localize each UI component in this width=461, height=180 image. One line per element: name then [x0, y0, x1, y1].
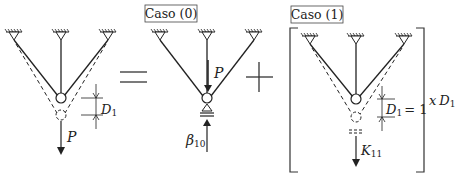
- reaction-label: β10: [185, 132, 206, 149]
- arrow-head-icon: [57, 147, 65, 155]
- right-bracket: [416, 28, 424, 172]
- equals-operator: [120, 72, 147, 82]
- pin-support-icon: [5, 29, 22, 40]
- load-label: P: [213, 65, 224, 81]
- bar-left: [14, 40, 58, 96]
- node-joint: [56, 93, 66, 103]
- multiplier-label: xD1: [429, 93, 456, 109]
- panel-case-0: Caso (0) P β10: [145, 5, 262, 152]
- node-joint: [202, 93, 212, 103]
- restraint-icon: [202, 104, 212, 111]
- pin-support-icon: [301, 33, 318, 44]
- pin-support-icon: [347, 33, 364, 44]
- deformed-bar-right: [65, 44, 106, 113]
- displaced-node: [56, 110, 66, 120]
- bar-right: [64, 40, 108, 96]
- plus-operator: [246, 62, 273, 92]
- case-0-title: Caso (0): [145, 6, 198, 21]
- pin-support-icon: [99, 29, 116, 40]
- displacement-label: D1: [100, 102, 117, 118]
- deformed-bar-left: [16, 44, 57, 113]
- arrow-head-icon: [203, 119, 211, 126]
- arrow-head-icon: [204, 85, 212, 92]
- load-label: P: [66, 129, 77, 145]
- displaced-node: [351, 112, 361, 122]
- arrow-head-icon: [352, 159, 360, 167]
- pin-support-icon: [151, 29, 168, 40]
- stiffness-label: K11: [360, 143, 382, 159]
- panel-case-1: Caso (1) K11 D1= 1 xD1: [290, 6, 456, 172]
- deformed-bar-left: [312, 48, 352, 114]
- pin-support-icon: [395, 33, 412, 44]
- bar-left: [310, 44, 353, 97]
- panel-original: P D1: [5, 29, 117, 155]
- node-joint: [351, 94, 361, 104]
- unit-displacement-label: D1= 1: [385, 102, 427, 118]
- bar-right: [359, 44, 404, 97]
- bar-left: [160, 40, 203, 96]
- case-1-title: Caso (1): [291, 7, 344, 22]
- pin-support-icon: [52, 29, 69, 40]
- superposition-diagram: P D1 Caso (0) P β10: [0, 0, 461, 180]
- pin-support-icon: [198, 29, 215, 40]
- pin-support-icon: [245, 29, 262, 40]
- left-bracket: [290, 28, 298, 172]
